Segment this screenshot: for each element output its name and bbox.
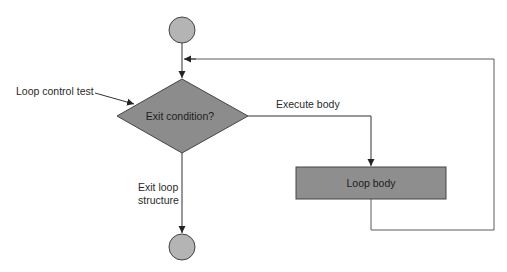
loop-control-test-label: Loop control test [16, 85, 94, 97]
flowchart-canvas: Exit condition? Execute body Loop body E… [0, 0, 507, 272]
edge-decision-to-body [248, 116, 371, 166]
execute-body-label: Execute body [276, 98, 340, 110]
edge-body-to-decision-return [186, 59, 494, 230]
loop-control-test-arrow [95, 93, 134, 104]
end-node [169, 234, 195, 260]
decision-label: Exit condition? [146, 110, 214, 122]
exit-loop-label-line2: structure [138, 194, 179, 206]
start-node [169, 17, 195, 43]
loop-body-label: Loop body [346, 177, 396, 189]
exit-loop-label-line1: Exit loop [138, 181, 178, 193]
